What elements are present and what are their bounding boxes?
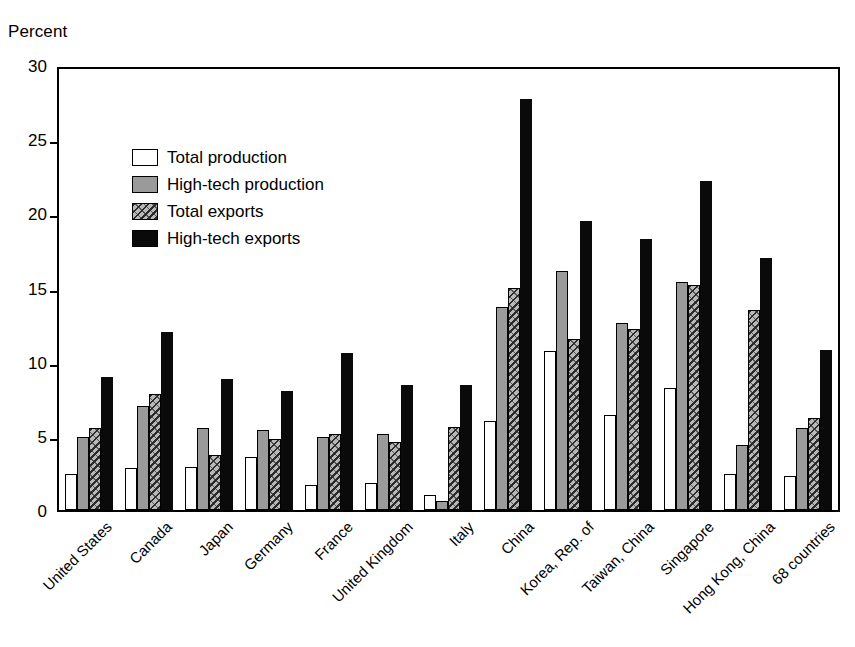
y-tick-20 xyxy=(50,216,59,218)
legend-label-total-exports: Total exports xyxy=(167,203,263,220)
bar xyxy=(484,421,496,510)
bar xyxy=(269,439,281,510)
y-tick-25 xyxy=(50,142,59,144)
bar xyxy=(664,388,676,510)
bar-groups xyxy=(59,69,838,510)
bar xyxy=(760,258,772,510)
bar xyxy=(101,377,113,511)
bar xyxy=(568,339,580,510)
legend-item-high-tech-production: High-tech production xyxy=(132,174,324,194)
bar xyxy=(556,271,568,510)
x-axis-label: 68 countries xyxy=(768,518,838,588)
bar xyxy=(628,329,640,510)
bar xyxy=(508,288,520,511)
bar xyxy=(221,379,233,510)
legend-label-high-tech-exports: High-tech exports xyxy=(167,230,300,247)
bar xyxy=(460,385,472,510)
bar xyxy=(640,239,652,510)
y-tick-label-10: 10 xyxy=(0,355,47,372)
legend-swatch-total-production xyxy=(132,149,158,166)
bar-group xyxy=(119,69,179,510)
bar xyxy=(305,485,317,510)
chart-figure: Percent 051015202530 Total production Hi… xyxy=(0,0,855,647)
bar xyxy=(245,457,257,510)
legend-item-total-exports: Total exports xyxy=(132,201,324,221)
bar-group xyxy=(658,69,718,510)
bar xyxy=(149,394,161,510)
bar xyxy=(185,467,197,510)
bar xyxy=(724,474,736,510)
bar xyxy=(448,427,460,510)
legend-item-total-production: Total production xyxy=(132,147,324,167)
bar xyxy=(784,476,796,510)
legend-swatch-high-tech-production xyxy=(132,176,158,193)
top-margin xyxy=(0,0,855,10)
bar xyxy=(77,437,89,510)
y-tick-label-15: 15 xyxy=(0,281,47,298)
legend-label-high-tech-production: High-tech production xyxy=(167,176,324,193)
bar xyxy=(197,428,209,510)
bar-group xyxy=(718,69,778,510)
y-tick-label-25: 25 xyxy=(0,132,47,149)
bar xyxy=(808,418,820,510)
bar-group xyxy=(179,69,239,510)
y-tick-10 xyxy=(50,365,59,367)
bar xyxy=(257,430,269,510)
bar xyxy=(65,474,77,510)
bar xyxy=(748,310,760,510)
x-axis-label: Italy xyxy=(445,518,476,549)
bar xyxy=(389,442,401,510)
bar xyxy=(329,434,341,510)
x-axis-category-labels: United StatesCanadaJapanGermanyFranceUni… xyxy=(57,512,840,647)
bar xyxy=(137,406,149,510)
bar xyxy=(496,307,508,510)
chart-legend: Total production High-tech production To… xyxy=(132,147,324,248)
bar xyxy=(365,483,377,510)
y-tick-15 xyxy=(50,291,59,293)
bar xyxy=(377,434,389,510)
bar-group xyxy=(359,69,419,510)
bar-group xyxy=(598,69,658,510)
legend-swatch-high-tech-exports xyxy=(132,230,158,247)
y-tick-5 xyxy=(50,439,59,441)
plot-area: Total production High-tech production To… xyxy=(57,67,840,512)
bar xyxy=(317,437,329,510)
bar-group xyxy=(538,69,598,510)
legend-label-total-production: Total production xyxy=(167,149,287,166)
bar xyxy=(125,468,137,510)
x-axis-label: Japan xyxy=(195,518,236,559)
bar xyxy=(424,495,436,510)
bar xyxy=(401,385,413,510)
bar xyxy=(700,181,712,510)
x-axis-label: United States xyxy=(39,518,115,594)
x-axis-label: China xyxy=(497,518,537,558)
y-axis-title: Percent xyxy=(8,22,67,42)
bar xyxy=(341,353,353,510)
legend-swatch-total-exports xyxy=(132,203,158,220)
bar xyxy=(161,332,173,510)
bar-group xyxy=(239,69,299,510)
x-axis-label: Germany xyxy=(240,518,296,574)
bar xyxy=(209,455,221,510)
x-axis-label: Canada xyxy=(126,518,175,567)
bar xyxy=(544,351,556,510)
y-tick-label-30: 30 xyxy=(0,58,47,75)
bar xyxy=(580,221,592,510)
bar-group xyxy=(419,69,479,510)
bar xyxy=(676,282,688,510)
y-tick-label-0: 0 xyxy=(0,503,47,520)
legend-item-high-tech-exports: High-tech exports xyxy=(132,228,324,248)
bar xyxy=(520,99,532,510)
bar xyxy=(820,350,832,510)
bar xyxy=(436,501,448,510)
y-tick-label-5: 5 xyxy=(0,429,47,446)
bar xyxy=(281,391,293,510)
bar xyxy=(688,285,700,510)
bar-group xyxy=(299,69,359,510)
bar-group xyxy=(478,69,538,510)
x-axis-label: France xyxy=(311,518,356,563)
bar-group xyxy=(778,69,838,510)
bar xyxy=(616,323,628,510)
bar xyxy=(796,428,808,510)
x-axis-label: Singapore xyxy=(657,518,717,578)
